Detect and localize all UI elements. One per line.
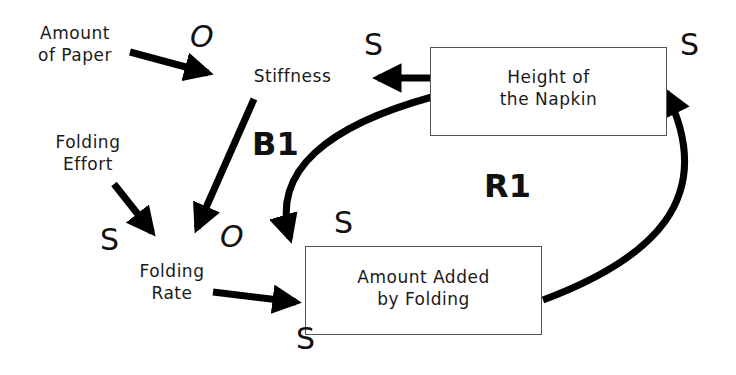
polarity-added-to-height: S	[680, 30, 699, 60]
node-stiffness: Stiffness	[230, 65, 355, 87]
node-folding-effort: Folding Effort	[38, 131, 138, 175]
polarity-stiffness-to-rate: O	[220, 222, 244, 252]
node-amount-of-paper-line1: Amount	[20, 22, 130, 44]
arrow-rate-to-added	[213, 292, 296, 302]
arrow-height-to-added	[286, 97, 432, 238]
loop-label-balancing: B1	[252, 128, 299, 160]
arrow-paper-to-stiffness	[130, 52, 208, 73]
polarity-paper-to-stiffness: O	[190, 22, 214, 52]
node-folding-effort-line2: Effort	[38, 153, 138, 175]
node-height-line1: Height of	[430, 66, 667, 88]
node-folding-rate: Folding Rate	[122, 260, 222, 304]
arrow-stiffness-to-rate	[197, 99, 254, 228]
loop-label-reinforcing: R1	[484, 170, 531, 202]
polarity-height-to-stiffness: S	[364, 30, 383, 60]
node-folding-effort-line1: Folding	[38, 131, 138, 153]
node-added-line2: by Folding	[305, 288, 542, 310]
node-height-line2: the Napkin	[430, 88, 667, 110]
node-amount-of-paper: Amount of Paper	[20, 22, 130, 66]
node-amount-of-paper-line2: of Paper	[20, 44, 130, 66]
polarity-height-to-added: S	[334, 208, 353, 238]
node-folding-rate-line2: Rate	[122, 282, 222, 304]
node-height-of-napkin: Height of the Napkin	[430, 66, 667, 110]
node-added-line1: Amount Added	[305, 266, 542, 288]
polarity-effort-to-rate: S	[100, 225, 119, 255]
node-folding-rate-line1: Folding	[122, 260, 222, 282]
arrow-effort-to-rate	[114, 184, 152, 232]
node-amount-added-by-folding: Amount Added by Folding	[305, 266, 542, 310]
polarity-rate-to-added: S	[296, 324, 315, 354]
